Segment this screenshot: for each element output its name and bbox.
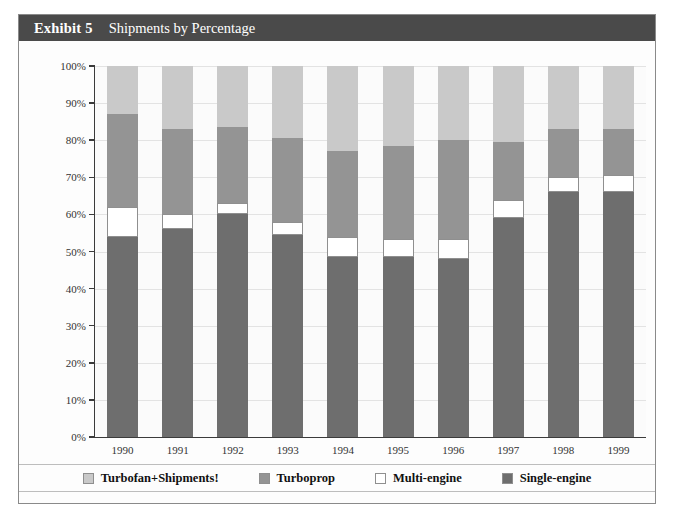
x-axis-tick-label: 1993 [277,444,299,456]
exhibit-number-label: Exhibit 5 [34,20,93,37]
x-axis-tick-label: 1991 [167,444,189,456]
y-axis-tick-label: 40% [66,283,86,295]
bar-segment-single-engine[interactable] [327,257,358,437]
bar-segment-multi-engine[interactable] [438,239,469,259]
bar-1999[interactable]: 1999 [603,66,634,437]
y-axis-tick [89,65,95,67]
bar-segment-multi-engine[interactable] [162,214,193,229]
y-axis-tick-label: 60% [66,208,86,220]
bar-segment-turboprop[interactable] [217,127,248,203]
bar-segment-turbofan-shipments[interactable] [217,66,248,127]
bar-segment-single-engine[interactable] [217,214,248,437]
bar-segment-turboprop[interactable] [272,138,303,221]
bar-segment-turbofan-shipments[interactable] [107,66,138,114]
bar-segment-single-engine[interactable] [272,235,303,437]
y-axis-tick [89,362,95,364]
legend-item[interactable]: Multi-engine [375,471,462,486]
bar-segment-turboprop[interactable] [603,129,634,175]
y-axis-tick [89,436,95,438]
bar-segment-multi-engine[interactable] [383,239,414,258]
exhibit-title-band: Exhibit 5 Shipments by Percentage [19,15,655,41]
y-axis-tick-label: 70% [66,171,86,183]
y-axis-tick [89,288,95,290]
turboprop-swatch [259,473,270,484]
bar-segment-turbofan-shipments[interactable] [327,66,358,151]
bar-segment-multi-engine[interactable] [493,200,524,219]
bar-segment-turboprop[interactable] [383,146,414,239]
bar-segment-turboprop[interactable] [107,114,138,207]
bar-segment-single-engine[interactable] [603,192,634,437]
y-axis-tick-label: 50% [66,246,86,258]
y-axis-tick-label: 0% [71,431,86,443]
legend-item[interactable]: Turboprop [259,471,335,486]
y-axis-tick [89,251,95,253]
bar-segment-single-engine[interactable] [383,257,414,437]
bar-segment-multi-engine[interactable] [272,222,303,235]
bar-1992[interactable]: 1992 [217,66,248,437]
bar-segment-turboprop[interactable] [438,140,469,238]
legend-item-label: Turbofan+Shipments! [101,471,219,486]
bar-1993[interactable]: 1993 [272,66,303,437]
x-axis-tick-label: 1999 [607,444,629,456]
y-axis-tick [89,102,95,104]
bar-1996[interactable]: 1996 [438,66,469,437]
bar-1998[interactable]: 1998 [548,66,579,437]
bar-1995[interactable]: 1995 [383,66,414,437]
y-axis-tick-label: 90% [66,97,86,109]
bar-segment-single-engine[interactable] [162,229,193,437]
y-axis-tick-label: 10% [66,394,86,406]
legend-item-label: Single-engine [520,471,592,486]
bar-segment-multi-engine[interactable] [548,177,579,192]
bar-segment-single-engine[interactable] [548,192,579,437]
y-axis-tick-label: 20% [66,357,86,369]
bar-segment-turbofan-shipments[interactable] [548,66,579,129]
bar-segment-turbofan-shipments[interactable] [438,66,469,140]
single-engine-swatch [502,473,513,484]
y-axis-tick [89,325,95,327]
exhibit-chart-root: Exhibit 5 Shipments by Percentage 0%10%2… [0,0,674,525]
bar-segment-turboprop[interactable] [548,129,579,177]
bar-segment-turbofan-shipments[interactable] [162,66,193,129]
bar-segment-multi-engine[interactable] [327,237,358,257]
y-axis-tick [89,177,95,179]
bar-segment-multi-engine[interactable] [107,207,138,237]
bar-segment-turbofan-shipments[interactable] [603,66,634,129]
bar-1997[interactable]: 1997 [493,66,524,437]
bar-segment-multi-engine[interactable] [217,203,248,214]
bar-segment-single-engine[interactable] [493,218,524,437]
x-axis-tick-label: 1992 [222,444,244,456]
y-axis-tick-label: 100% [60,60,86,72]
chart-legend: Turbofan+Shipments!TurbopropMulti-engine… [19,464,655,492]
bar-segment-turboprop[interactable] [162,129,193,214]
bar-segment-multi-engine[interactable] [603,175,634,192]
y-axis-tick [89,214,95,216]
bar-segment-turbofan-shipments[interactable] [272,66,303,138]
x-axis-tick-label: 1995 [387,444,409,456]
x-axis-tick-label: 1994 [332,444,354,456]
y-axis-tick [89,139,95,141]
bar-segment-turboprop[interactable] [493,142,524,200]
legend-item[interactable]: Single-engine [502,471,592,486]
legend-item-label: Multi-engine [393,471,462,486]
legend-item-label: Turboprop [277,471,335,486]
bar-segment-single-engine[interactable] [107,237,138,437]
y-axis-tick [89,399,95,401]
bar-segment-turbofan-shipments[interactable] [493,66,524,142]
plot-wrapper: 0%10%20%30%40%50%60%70%80%90%100%1990199… [19,41,655,463]
bar-segment-single-engine[interactable] [438,259,469,437]
bar-1991[interactable]: 1991 [162,66,193,437]
bar-1994[interactable]: 1994 [327,66,358,437]
page-title: Shipments by Percentage [109,20,256,37]
x-axis-tick-label: 1998 [552,444,574,456]
x-axis-tick-label: 1997 [497,444,519,456]
bar-segment-turbofan-shipments[interactable] [383,66,414,146]
x-axis-tick-label: 1996 [442,444,464,456]
y-axis-tick-label: 80% [66,134,86,146]
bar-1990[interactable]: 1990 [107,66,138,437]
bar-segment-turboprop[interactable] [327,151,358,236]
legend-item[interactable]: Turbofan+Shipments! [83,471,219,486]
multi-engine-swatch [375,473,386,484]
y-axis-tick-label: 30% [66,320,86,332]
x-axis-tick-label: 1990 [112,444,134,456]
turbofan-swatch [83,473,94,484]
